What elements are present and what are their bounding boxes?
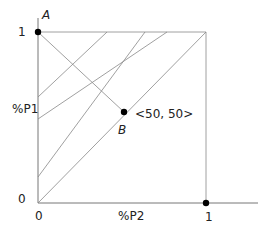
point-a-label: A: [42, 9, 50, 21]
point-c: [203, 200, 209, 206]
x-tick-1: 1: [205, 211, 213, 223]
y-axis-label: %P1: [12, 103, 38, 115]
y-tick-0: 0: [18, 193, 26, 205]
y-tick-1: 1: [18, 26, 26, 38]
x-tick-0: 0: [35, 210, 43, 222]
point-b-label: B: [118, 124, 126, 136]
a-to-b-line: [38, 32, 124, 112]
line-3: [38, 32, 145, 177]
point-a: [35, 29, 41, 35]
line-2: [38, 32, 167, 119]
x-axis-label: %P2: [118, 210, 144, 222]
point-b: [121, 109, 127, 115]
point-b-coords: <50, 50>: [135, 108, 193, 120]
